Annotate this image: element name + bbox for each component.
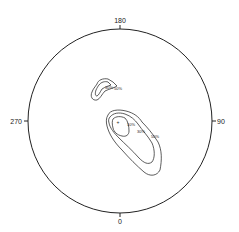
label-90: 90 — [217, 118, 225, 125]
contour-label: 10% — [127, 122, 135, 127]
center-marker: + — [117, 119, 120, 125]
label-0: 0 — [118, 218, 122, 225]
contour-middle — [109, 113, 155, 163]
contour-label: 50% — [151, 134, 159, 139]
primitive-circle — [28, 29, 212, 213]
stereonet-diagram: 180 0 270 90 30% 50% + 10% 30% 50% — [0, 0, 239, 232]
upper-left-cluster: 30% 50% — [91, 79, 122, 100]
main-cluster: + 10% 30% 50% — [106, 110, 161, 175]
label-270: 270 — [10, 118, 22, 125]
contour-label: 50% — [114, 86, 122, 91]
contour-label: 30% — [105, 85, 113, 90]
label-180: 180 — [114, 17, 126, 24]
contour-label: 30% — [137, 129, 145, 134]
